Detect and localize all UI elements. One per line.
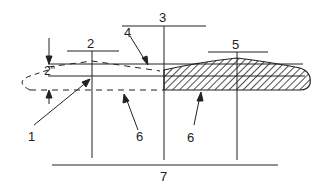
diagram-canvas: [0, 0, 323, 190]
label-6-left: 6: [136, 130, 143, 143]
dashed-crown: [48, 61, 160, 71]
dimension-label: 2": [44, 65, 55, 77]
label-1: 1: [28, 130, 35, 143]
label-2: 2: [87, 37, 94, 50]
label-6-right: 6: [187, 131, 194, 144]
label-5: 5: [232, 38, 239, 51]
label-7: 7: [160, 170, 167, 183]
hatched-section: [164, 58, 310, 90]
label-4: 4: [124, 26, 131, 39]
label-3: 3: [159, 11, 166, 24]
